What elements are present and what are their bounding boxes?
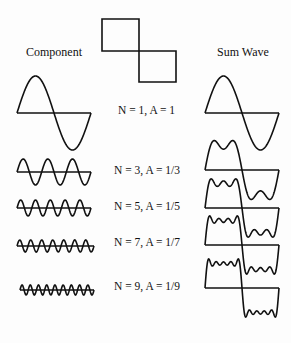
fourier-diagram: Component Sum Wave N = 1, A = 1 N = 3, A… bbox=[0, 0, 291, 343]
component-header: Component bbox=[26, 45, 82, 60]
component-wave-n7 bbox=[17, 240, 94, 252]
component-wave-n3 bbox=[17, 159, 91, 185]
component-wave-n9 bbox=[20, 285, 94, 295]
term-label-n1: N = 1, A = 1 bbox=[118, 104, 175, 116]
sum-wave-n1 bbox=[205, 76, 279, 150]
square-wave bbox=[102, 19, 176, 82]
term-label-n9: N = 9, A = 1/9 bbox=[114, 280, 180, 292]
term-label-n5: N = 5, A = 1/5 bbox=[114, 200, 180, 212]
sum-waves bbox=[205, 76, 279, 317]
sum-wave-n5 bbox=[205, 179, 279, 237]
component-wave-n1 bbox=[17, 76, 91, 150]
sum-wave-header: Sum Wave bbox=[217, 45, 269, 60]
term-label-n7: N = 7, A = 1/7 bbox=[114, 236, 180, 248]
component-wave-n5 bbox=[17, 200, 91, 216]
component-waves bbox=[17, 76, 94, 295]
sum-wave-n7 bbox=[205, 216, 279, 274]
term-label-n3: N = 3, A = 1/3 bbox=[114, 164, 180, 176]
sum-wave-n3 bbox=[205, 141, 279, 200]
